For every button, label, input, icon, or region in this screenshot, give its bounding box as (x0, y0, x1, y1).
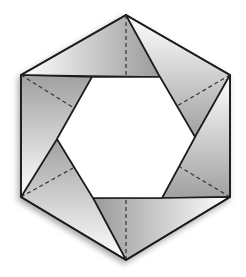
origami-hexagon-diagram (0, 0, 246, 277)
